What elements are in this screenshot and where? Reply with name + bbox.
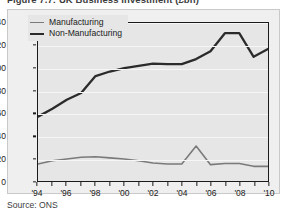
y-tick-label: 60 — [0, 108, 6, 118]
legend-line-swatch-icon — [30, 33, 44, 35]
gridline — [38, 46, 268, 47]
gridline — [38, 137, 268, 138]
x-tick-label: '98 — [89, 188, 100, 198]
x-tick-label: '10 — [263, 188, 274, 198]
x-tick-mark — [196, 182, 197, 186]
legend-line-swatch-icon — [30, 22, 44, 23]
y-tick-mark — [33, 44, 36, 45]
y-tick-mark — [33, 90, 36, 91]
legend-item-label: Non-Manufacturing — [49, 28, 122, 39]
series-line-manufacturing — [38, 146, 268, 166]
gridline — [38, 160, 268, 161]
chart-frame: 020406080100120140 '94'96'98'00'02'04'06… — [7, 9, 280, 194]
y-tick-label: 100 — [0, 63, 6, 73]
x-tick-mark — [36, 182, 37, 186]
x-tick-mark — [138, 182, 139, 186]
source-note: Source: ONS — [7, 200, 58, 210]
y-tick-label: 40 — [0, 131, 6, 141]
legend-item-non-manufacturing: Non-Manufacturing — [30, 28, 122, 39]
x-tick-label: '94 — [31, 188, 42, 198]
x-axis: '94'96'98'00'02'04'06'08'10 — [37, 182, 269, 204]
plot-inner — [38, 23, 268, 181]
y-tick-label: 20 — [0, 154, 6, 164]
x-tick-mark — [254, 182, 255, 186]
y-tick-label: 80 — [0, 86, 6, 96]
gridline — [38, 92, 268, 93]
y-tick-mark — [33, 113, 36, 114]
x-tick-mark — [210, 182, 211, 186]
y-tick-mark — [33, 67, 36, 68]
x-tick-mark — [167, 182, 168, 186]
plot-area — [37, 22, 269, 182]
x-tick-label: '02 — [147, 188, 158, 198]
legend-item-manufacturing: Manufacturing — [30, 17, 122, 28]
x-tick-label: '08 — [234, 188, 245, 198]
x-tick-label: '00 — [118, 188, 129, 198]
x-tick-mark — [65, 182, 66, 186]
x-tick-mark — [239, 182, 240, 186]
gridline — [38, 114, 268, 115]
x-tick-label: '06 — [205, 188, 216, 198]
x-tick-mark — [268, 182, 269, 186]
x-tick-mark — [152, 182, 153, 186]
gridline — [38, 69, 268, 70]
x-tick-mark — [181, 182, 182, 186]
y-tick-mark — [33, 158, 36, 159]
x-tick-mark — [123, 182, 124, 186]
x-tick-mark — [109, 182, 110, 186]
legend-item-label: Manufacturing — [49, 17, 103, 28]
y-tick-label: 0 — [1, 177, 6, 187]
x-tick-mark — [225, 182, 226, 186]
y-tick-mark — [33, 136, 36, 137]
y-tick-label: 120 — [0, 40, 6, 50]
x-tick-mark — [94, 182, 95, 186]
x-tick-label: '96 — [60, 188, 71, 198]
figure-title: Figure 7.7: UK Business Investment (£bn) — [7, 0, 282, 5]
figure-container: Figure 7.7: UK Business Investment (£bn)… — [0, 0, 287, 218]
y-tick-label: 140 — [0, 17, 6, 27]
x-tick-label: '04 — [176, 188, 187, 198]
chart-legend: Manufacturing Non-Manufacturing — [28, 15, 128, 41]
x-tick-mark — [80, 182, 81, 186]
x-tick-mark — [51, 182, 52, 186]
